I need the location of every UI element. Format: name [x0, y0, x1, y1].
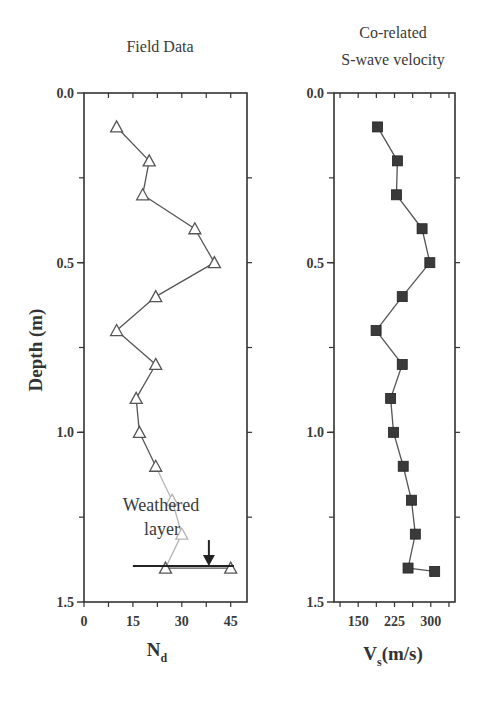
square-marker — [410, 529, 420, 539]
y-tick-label: 0.0 — [307, 86, 325, 101]
square-marker — [397, 292, 407, 302]
plot-frame — [334, 93, 455, 602]
triangle-marker — [189, 223, 201, 234]
y-tick-label: 1.0 — [57, 425, 75, 440]
x-tick-label: 225 — [384, 614, 405, 629]
velocity-plot: 1502253000.00.51.01.5 — [307, 86, 461, 629]
figure: Field Data 01530450.00.51.01.5 Depth (m)… — [0, 0, 487, 701]
square-marker — [373, 122, 383, 132]
triangle-marker — [133, 426, 145, 437]
triangle-marker — [150, 460, 162, 471]
square-marker — [403, 563, 413, 573]
triangle-marker — [111, 121, 123, 132]
square-marker — [430, 566, 440, 576]
field-data-plot: 01530450.00.51.01.5 — [57, 86, 253, 629]
velocity-title-line1: Co-related — [359, 24, 427, 41]
x-tick-label: 150 — [348, 614, 369, 629]
x-tick-label: 0 — [81, 614, 88, 629]
weathered-layer-annotation: Weathered layer — [123, 495, 200, 539]
y-tick-label: 0.0 — [57, 86, 75, 101]
triangle-marker — [208, 257, 220, 268]
square-marker — [391, 190, 401, 200]
field-data-title: Field Data — [126, 38, 193, 55]
square-marker — [392, 156, 402, 166]
down-arrow-icon — [203, 555, 215, 566]
square-marker — [386, 393, 396, 403]
y-tick-label: 0.5 — [307, 256, 325, 271]
square-marker — [371, 326, 381, 336]
square-marker — [397, 359, 407, 369]
square-marker — [406, 495, 416, 505]
series-line — [143, 195, 195, 229]
weathered-label: Weathered — [123, 495, 200, 515]
square-marker — [398, 461, 408, 471]
velocity-title-line2: S-wave velocity — [341, 51, 445, 69]
x-tick-label: 300 — [420, 614, 441, 629]
y-tick-label: 0.5 — [57, 256, 75, 271]
y-tick-label: 1.0 — [307, 425, 325, 440]
square-marker — [425, 258, 435, 268]
vs-axis-label: Vs(m/s) — [363, 643, 423, 669]
triangle-marker — [130, 392, 142, 403]
square-marker — [389, 427, 399, 437]
nd-axis-label: Nd — [147, 639, 168, 665]
field-data-panel: Field Data 01530450.00.51.01.5 Depth (m)… — [25, 38, 252, 665]
series-line — [156, 263, 215, 297]
x-tick-label: 15 — [126, 614, 140, 629]
triangle-marker — [150, 291, 162, 302]
y-tick-label: 1.5 — [57, 595, 75, 610]
square-marker — [417, 224, 427, 234]
y-tick-label: 1.5 — [307, 595, 325, 610]
depth-axis-label: Depth (m) — [25, 309, 47, 392]
x-tick-label: 30 — [175, 614, 189, 629]
x-tick-label: 45 — [224, 614, 238, 629]
triangle-marker — [137, 189, 149, 200]
s-wave-velocity-panel: Co-related S-wave velocity 1502253000.00… — [307, 24, 461, 669]
layer-label: layer — [144, 519, 180, 539]
